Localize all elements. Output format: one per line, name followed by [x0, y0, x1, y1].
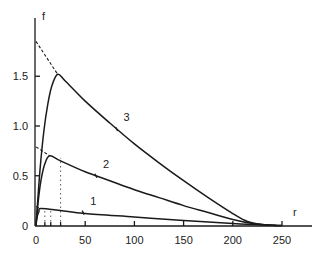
- plot-area: 00.51.01.5 050100150200250 123 f r: [13, 10, 312, 246]
- x-tick-label: 100: [125, 234, 143, 246]
- curve-label-tick: [116, 127, 118, 131]
- chart: 00.51.01.5 050100150200250 123 f r: [0, 0, 326, 257]
- curve-label-3: 3: [124, 111, 130, 123]
- y-ticks: 00.51.01.5: [13, 70, 40, 231]
- x-axis-label: r: [293, 206, 297, 218]
- curves: 123: [36, 74, 282, 225]
- y-tick-label: 0.5: [13, 170, 28, 182]
- tangent-line-2: [36, 147, 50, 156]
- curve-label-tick: [95, 174, 97, 178]
- y-tick-label: 0: [22, 220, 28, 232]
- curve-3: [36, 74, 277, 225]
- y-tick-label: 1.0: [13, 120, 28, 132]
- x-tick-label: 200: [224, 234, 242, 246]
- x-tick-label: 50: [79, 234, 91, 246]
- x-tick-label: 150: [174, 234, 192, 246]
- x-tick-label: 0: [33, 234, 39, 246]
- curve-label-2: 2: [103, 158, 109, 170]
- x-tick-label: 250: [273, 234, 291, 246]
- annotations: [36, 41, 61, 226]
- y-tick-label: 1.5: [13, 70, 28, 82]
- tangent-line-3: [36, 41, 58, 74]
- curve-2: [36, 156, 282, 226]
- curve-label-1: 1: [90, 195, 96, 207]
- y-axis-label: f: [42, 10, 46, 22]
